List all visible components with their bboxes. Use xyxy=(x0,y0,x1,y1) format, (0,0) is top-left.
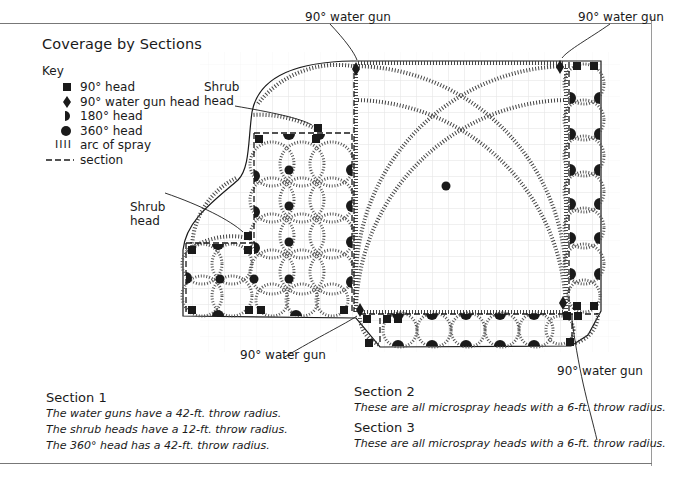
section-1-line: The water guns have a 42-ft. throw radiu… xyxy=(46,406,288,422)
section-3-line: These are all microspray heads with a 6-… xyxy=(354,436,666,452)
water-gun-label-top-right: 90° water gun xyxy=(578,10,664,24)
section-2-heading: Section 2 xyxy=(354,384,666,400)
section-1-line: The shrub heads have a 12-ft. throw radi… xyxy=(46,422,288,438)
water-gun-label-bottom-right: 90° water gun xyxy=(557,364,643,378)
section-1-description: Section 1 The water guns have a 42-ft. t… xyxy=(46,390,288,454)
shrub-head-label-upper: Shrub head xyxy=(204,80,244,108)
water-gun-label-bottom-left: 90° water gun xyxy=(240,348,326,362)
shrub-head-label-lower: Shrub head xyxy=(130,200,170,228)
section-1-line: The 360° head has a 42-ft. throw radius. xyxy=(46,438,288,454)
section-2-line: These are all microspray heads with a 6-… xyxy=(354,400,666,416)
section-3-description: Section 3 These are all microspray heads… xyxy=(354,420,666,452)
section-3-heading: Section 3 xyxy=(354,420,666,436)
water-gun-label-top-left: 90° water gun xyxy=(305,10,391,24)
section-1-heading: Section 1 xyxy=(46,390,288,406)
section-2-description: Section 2 These are all microspray heads… xyxy=(354,384,666,416)
